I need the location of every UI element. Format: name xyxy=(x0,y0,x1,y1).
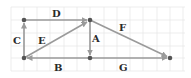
point-bottom-middle xyxy=(88,56,93,61)
labels: D C E A F B G xyxy=(13,8,128,73)
label-c: C xyxy=(13,35,21,46)
vector-e xyxy=(24,22,87,58)
label-g: G xyxy=(119,62,128,73)
label-e: E xyxy=(38,35,46,46)
vector-f xyxy=(90,20,167,57)
label-f: F xyxy=(119,22,126,33)
label-d: D xyxy=(52,8,61,19)
point-right xyxy=(168,56,173,61)
label-b: B xyxy=(54,62,62,73)
point-bottom-left xyxy=(22,56,27,61)
label-a: A xyxy=(91,33,100,44)
point-top-middle xyxy=(88,18,93,23)
vector-diagram: D C E A F B G xyxy=(0,0,191,78)
point-top-left xyxy=(22,18,27,23)
diagram-svg: D C E A F B G xyxy=(0,0,191,78)
